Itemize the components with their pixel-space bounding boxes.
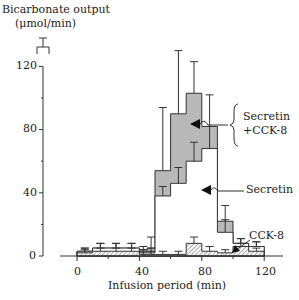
x-tick-0: 0 — [74, 266, 81, 278]
x-tick-80: 80 — [198, 266, 212, 278]
annotation-combo-line — [200, 121, 228, 125]
y-axis-label-line2: (μmol/min) — [15, 18, 76, 30]
y-tick-120: 120 — [16, 60, 37, 72]
annotation-secretin-cck8-line1: Secretin — [243, 111, 290, 123]
pre-infusion-bracket — [37, 47, 49, 54]
plot-area — [37, 38, 283, 261]
y-tick-40: 40 — [23, 187, 37, 199]
x-tick-120: 120 — [255, 266, 276, 278]
annotation-secretin-cck8-line2: +CCK-8 — [243, 125, 287, 137]
y-tick-80: 80 — [23, 123, 37, 135]
x-tick-40: 40 — [135, 266, 149, 278]
x-axis-label: Infusion period (min) — [108, 280, 226, 292]
y-axis-label-line1: Bicarbonate output — [2, 4, 110, 16]
annotation-cck8: CCK-8 — [249, 230, 284, 242]
bicarbonate-chart — [0, 0, 299, 300]
annotation-brace — [230, 104, 238, 146]
y-tick-0: 0 — [29, 250, 36, 262]
annotation-secretin: Secretin — [246, 184, 293, 196]
